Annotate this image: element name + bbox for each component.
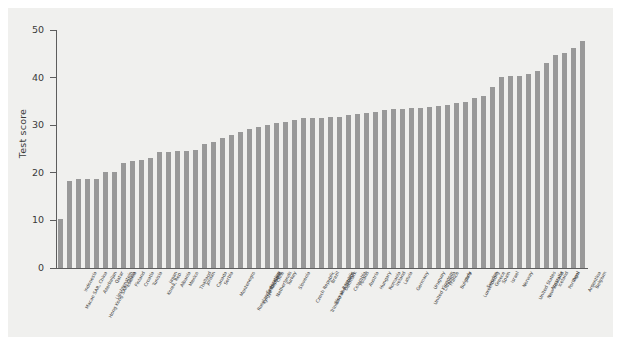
x-axis-tick-label: Germany: [416, 271, 430, 292]
x-axis-tick-label: Italy: [464, 271, 473, 282]
x-axis-tick-label: Norway: [522, 271, 534, 289]
chart-figure: Test score 01020304050 Macao SAR, ChinaI…: [0, 0, 621, 352]
x-axis-tick-label: Montenegro: [239, 271, 256, 298]
x-axis-tick-label: Slovenia: [298, 271, 311, 290]
x-axis-labels: Macao SAR, ChinaIndonesiaHong Kong SAR, …: [0, 0, 621, 352]
x-axis-tick-label: Peru: [572, 271, 581, 282]
